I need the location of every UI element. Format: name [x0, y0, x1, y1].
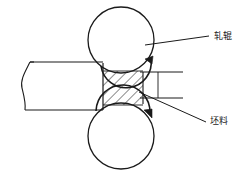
label-roll: 轧辊: [214, 31, 233, 41]
rolling-mill-diagram: 轧辊 坯料: [0, 0, 244, 176]
workpiece-break-line: [22, 62, 30, 110]
top-roll-rotation-arrowhead: [145, 56, 153, 64]
diagram-canvas: [0, 0, 244, 176]
top-roll-circle: [88, 7, 154, 73]
workpiece-strip: [22, 62, 103, 110]
label-billet: 坯料: [210, 116, 229, 126]
bottom-roll-circle: [88, 103, 154, 169]
